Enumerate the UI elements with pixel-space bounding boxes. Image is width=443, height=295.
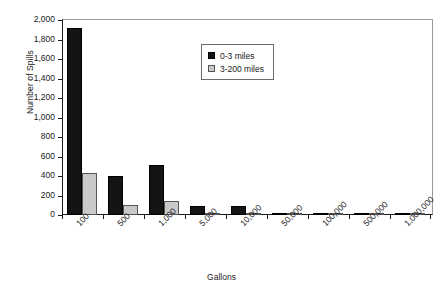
bar-series-0-3-miles — [190, 206, 205, 215]
y-axis-tick-label: 1,600 — [34, 53, 55, 63]
y-axis-tick-label: 200 — [41, 190, 55, 200]
x-axis-labels: 1005001,0005,00010,00050,000100,000500,0… — [62, 215, 433, 275]
bar-series-3-200-miles — [82, 173, 97, 215]
bar-chart: Number of Spills 02004006008001,0001,200… — [0, 0, 443, 295]
legend: 0-3 miles3-200 miles — [201, 44, 274, 80]
y-axis-tick-label: 600 — [41, 151, 55, 161]
y-axis-tick-label: 1,800 — [34, 34, 55, 44]
y-axis-tick-label: 1,200 — [34, 92, 55, 102]
y-axis-tick-label: 2,000 — [34, 14, 55, 24]
y-axis-ticks: 02004006008001,0001,2001,4001,6001,8002,… — [0, 19, 62, 215]
bar-series-0-3-miles — [67, 28, 82, 215]
x-axis-title: Gallons — [0, 272, 443, 282]
bar-series-0-3-miles — [149, 165, 164, 215]
y-axis-tick-label: 1,400 — [34, 73, 55, 83]
bar-series-0-3-miles — [231, 206, 246, 215]
y-axis-tick-label: 0 — [50, 209, 55, 219]
y-axis-tick-label: 400 — [41, 170, 55, 180]
y-axis-tick-label: 800 — [41, 131, 55, 141]
legend-item-label: 3-200 miles — [220, 64, 264, 74]
y-axis-tick-label: 1,000 — [34, 112, 55, 122]
legend-item-label: 0-3 miles — [220, 51, 254, 61]
legend-item: 3-200 miles — [208, 62, 264, 75]
legend-swatch-icon — [208, 65, 215, 72]
bar-series-0-3-miles — [108, 176, 123, 215]
legend-item: 0-3 miles — [208, 49, 264, 62]
legend-swatch-icon — [208, 52, 215, 59]
